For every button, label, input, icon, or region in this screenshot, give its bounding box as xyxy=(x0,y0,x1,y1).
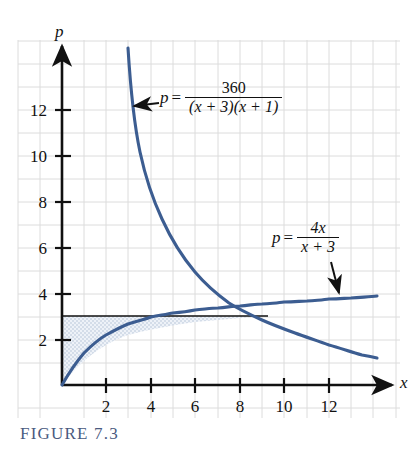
shaded-region-consumer-surplus xyxy=(62,316,262,385)
demand-equation-equals: = xyxy=(172,89,186,106)
graph-canvas: 2 4 6 8 10 12 2 4 6 8 10 12 xyxy=(0,0,420,452)
figure-caption: FIGURE 7.3 xyxy=(20,424,119,444)
x-axis-tick-labels: 2 4 6 8 10 12 xyxy=(102,397,338,416)
x-tick-label: 8 xyxy=(236,397,245,416)
y-tick-label: 2 xyxy=(39,331,48,350)
demand-equation-lhs: p xyxy=(160,89,172,106)
y-tick-label: 8 xyxy=(39,193,48,212)
supply-equation-numerator: 4x xyxy=(297,220,339,237)
x-tick-label: 4 xyxy=(147,397,156,416)
demand-equation-numerator: 360 xyxy=(185,80,282,97)
supply-equation-denominator: x + 3 xyxy=(297,238,339,255)
demand-equation-fraction: 360 (x + 3)(x + 1) xyxy=(185,80,282,115)
x-tick-label: 2 xyxy=(102,397,111,416)
y-tick-label: 6 xyxy=(39,239,48,258)
supply-equation-label: p= 4x x + 3 xyxy=(272,220,339,255)
y-axis-name-label: p xyxy=(55,22,64,42)
demand-equation-denominator: (x + 3)(x + 1) xyxy=(185,98,282,115)
y-tick-label: 10 xyxy=(30,147,47,166)
figure-container: 2 4 6 8 10 12 2 4 6 8 10 12 p x p= 360 xyxy=(0,0,420,452)
x-tick-label: 6 xyxy=(191,397,200,416)
x-tick-label: 12 xyxy=(321,397,338,416)
supply-equation-fraction: 4x x + 3 xyxy=(297,220,339,255)
supply-equation-lhs: p xyxy=(272,229,284,246)
y-tick-label: 12 xyxy=(30,101,47,120)
y-tick-label: 4 xyxy=(39,285,48,304)
x-axis-name-label: x xyxy=(400,373,408,393)
supply-equation-equals: = xyxy=(284,229,298,246)
demand-label-pointer-arrow xyxy=(134,103,159,106)
supply-label-pointer-arrow xyxy=(331,262,339,293)
demand-equation-label: p= 360 (x + 3)(x + 1) xyxy=(160,80,282,115)
x-tick-label: 10 xyxy=(276,397,293,416)
